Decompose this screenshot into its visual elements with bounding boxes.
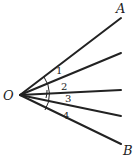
label-A: A xyxy=(115,1,125,16)
ray-OA xyxy=(20,18,121,95)
angle-label-1: 1 xyxy=(56,65,62,76)
diagram-canvas: O A B 1 2 3 4 xyxy=(0,0,136,158)
label-B: B xyxy=(122,143,133,158)
label-O: O xyxy=(3,88,14,103)
angle-label-2: 2 xyxy=(61,81,67,92)
angle-label-4: 4 xyxy=(63,110,69,121)
angle-label-3: 3 xyxy=(65,93,71,104)
ray-2 xyxy=(20,53,121,95)
angle-diagram: O A B 1 2 3 4 xyxy=(0,0,136,158)
